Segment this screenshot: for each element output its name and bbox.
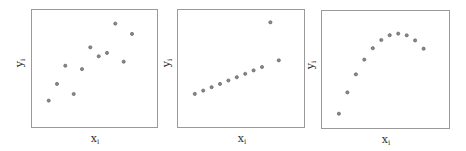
plot-frame [321, 10, 450, 129]
x-label-subscript: i [244, 138, 246, 146]
data-point [97, 55, 100, 58]
y-axis-label: yi [13, 59, 27, 67]
y-label-text: y [13, 61, 26, 67]
x-label-text: x [382, 133, 388, 146]
data-point [346, 91, 349, 94]
data-point [260, 65, 263, 68]
data-point [193, 92, 196, 95]
data-point [218, 82, 221, 85]
y-axis-label: yi [160, 59, 174, 67]
data-point [80, 68, 83, 71]
y-label-text: y [304, 63, 317, 69]
x-axis-label: xi [382, 133, 390, 147]
data-point [235, 76, 238, 79]
plot-frame [177, 9, 305, 128]
data-point [122, 60, 125, 63]
data-point [130, 32, 133, 35]
data-point [114, 22, 117, 25]
data-point [55, 82, 58, 85]
data-point [380, 38, 383, 41]
y-label-text: y [160, 61, 173, 67]
data-point [47, 99, 50, 102]
scatter-plot [178, 10, 304, 127]
data-point [371, 47, 374, 50]
scatter-plot [32, 10, 157, 127]
x-axis-label: xi [91, 132, 99, 146]
y-label-subscript: i [19, 59, 27, 61]
x-label-subscript: i [388, 139, 390, 147]
data-point [405, 34, 408, 37]
scatter-panel-1: yi xi [0, 0, 160, 151]
data-point [388, 34, 391, 37]
x-label-subscript: i [97, 138, 99, 146]
y-axis-label: yi [304, 61, 318, 69]
data-point [244, 72, 247, 75]
y-label-subscript: i [310, 61, 318, 63]
x-axis-label: xi [238, 132, 246, 146]
scatter-plot [322, 11, 449, 128]
data-point [363, 58, 366, 61]
data-point [105, 51, 108, 54]
data-point [397, 32, 400, 35]
data-point [72, 92, 75, 95]
data-point [64, 64, 67, 67]
data-point [414, 39, 417, 42]
data-point [269, 21, 272, 24]
y-label-subscript: i [166, 59, 174, 61]
data-point [202, 89, 205, 92]
x-label-text: x [238, 132, 244, 145]
data-point [422, 47, 425, 50]
data-point [89, 46, 92, 49]
plot-frame [31, 9, 158, 128]
data-point [277, 59, 280, 62]
data-point [337, 112, 340, 115]
data-point [252, 69, 255, 72]
data-point [354, 73, 357, 76]
data-point [210, 86, 213, 89]
data-point [227, 79, 230, 82]
